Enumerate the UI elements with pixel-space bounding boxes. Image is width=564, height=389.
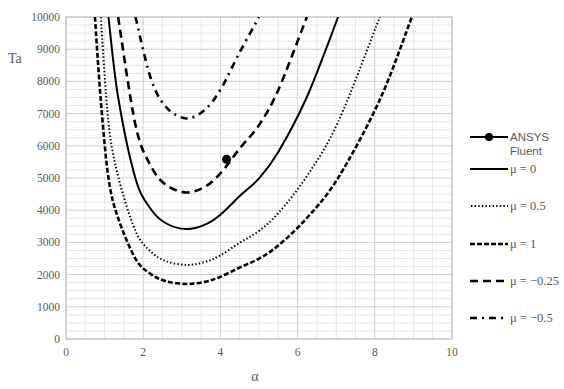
y-tick-label: 2000 [37, 269, 60, 281]
legend-label: μ = 0.5 [510, 199, 546, 214]
y-tick-label: 7000 [37, 108, 60, 120]
legend-item-mu-neg-0.5: μ = −0.5 [470, 311, 553, 326]
y-tick-label: 1000 [37, 301, 60, 313]
x-tick-label: 4 [218, 346, 224, 358]
legend-label: μ = 0 [510, 162, 536, 177]
y-tick-label: 10000 [31, 11, 60, 23]
dash-dot-line-icon [470, 311, 508, 325]
dotted-line-icon [470, 199, 508, 213]
legend-item-mu-0.5: μ = 0.5 [470, 199, 546, 214]
y-tick-label: 8000 [37, 75, 60, 87]
y-tick-label: 4000 [37, 204, 60, 216]
legend-label: μ = 1 [510, 237, 536, 252]
legend-label: μ = −0.5 [510, 311, 553, 326]
y-tick-label: 0 [54, 333, 60, 345]
y-tick-label: 9000 [37, 43, 60, 55]
legend-item-mu-neg-0.25: μ = −0.25 [470, 274, 559, 289]
short-dash-line-icon [470, 237, 508, 251]
x-tick-label: 2 [140, 346, 146, 358]
series-line [135, 17, 259, 118]
chart: 0100020003000400050006000700080009000100… [0, 0, 564, 389]
x-axis-ticks: 0246810 [63, 346, 458, 358]
legend-item-mu-0: μ = 0 [470, 162, 536, 177]
x-tick-label: 6 [295, 346, 301, 358]
x-tick-label: 10 [446, 346, 458, 358]
solid-line-icon [470, 162, 508, 176]
legend-item-mu-1: μ = 1 [470, 237, 536, 252]
y-tick-label: 6000 [37, 140, 60, 152]
x-tick-label: 8 [372, 346, 378, 358]
legend-label: μ = −0.25 [510, 274, 559, 289]
y-axis-title: Ta [8, 51, 23, 66]
marker-line-icon [470, 130, 508, 144]
legend-item-ansys-fluent: ANSYS Fluent [470, 130, 550, 158]
series-line [101, 17, 380, 265]
legend-label: ANSYS Fluent [510, 130, 550, 158]
x-tick-label: 0 [63, 346, 69, 358]
y-tick-label: 3000 [37, 236, 60, 248]
x-axis-title: α [251, 369, 259, 384]
y-axis-ticks: 0100020003000400050006000700080009000100… [31, 11, 60, 345]
long-dash-line-icon [470, 274, 508, 288]
y-tick-label: 5000 [37, 172, 60, 184]
